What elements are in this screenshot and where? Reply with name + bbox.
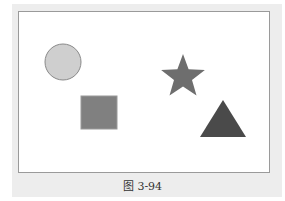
square-shape	[81, 96, 117, 129]
shapes-canvas	[0, 0, 285, 201]
star-shape	[161, 54, 205, 96]
circle-shape	[45, 44, 81, 80]
triangle-shape	[200, 100, 246, 137]
figure-caption: 图 3-94	[0, 177, 285, 193]
